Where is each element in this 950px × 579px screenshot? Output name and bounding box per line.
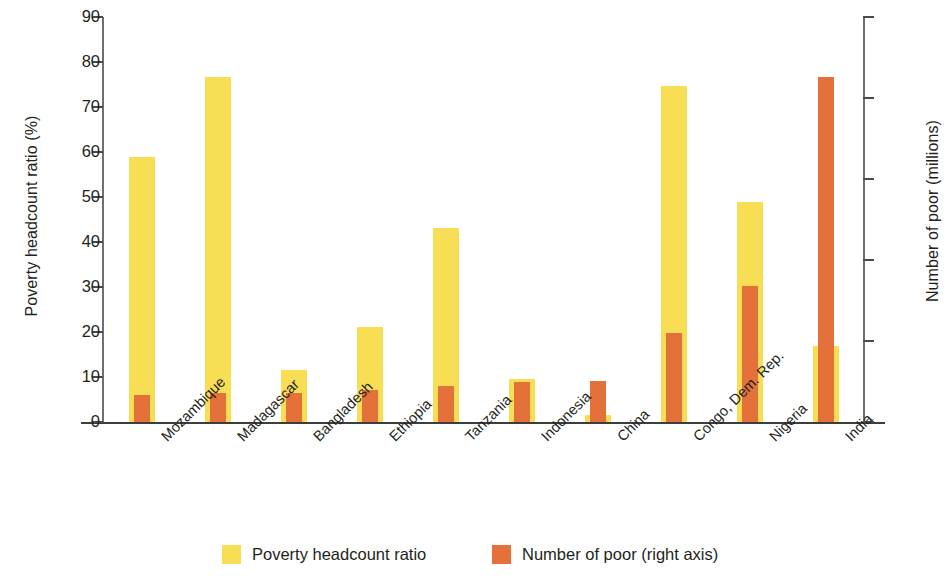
bar-group xyxy=(331,17,409,422)
category-label: Tanzania xyxy=(462,433,473,444)
left-axis-tick-label: 70 xyxy=(82,97,100,116)
legend-swatch-icon-orange xyxy=(492,545,511,564)
bar-group xyxy=(255,17,333,422)
category-label: Indonesia xyxy=(538,433,549,444)
bar-number-of-poor xyxy=(818,77,834,422)
bar-number-of-poor xyxy=(514,382,530,423)
category-label: Mozambique xyxy=(158,433,169,444)
left-axis-tick-label: 30 xyxy=(82,277,100,296)
left-axis-title: Poverty headcount ratio (%) xyxy=(23,86,41,346)
legend-label-number-of-poor: Number of poor (right axis) xyxy=(522,545,718,564)
legend-swatch-icon-yellow xyxy=(222,545,241,564)
left-axis-tick-label: 20 xyxy=(82,322,100,341)
legend-item-poverty-headcount-ratio: Poverty headcount ratio xyxy=(222,545,426,564)
left-axis-tick-label: 0 xyxy=(91,412,100,431)
poverty-bar-chart: Poverty headcount ratio (%) Number of po… xyxy=(0,0,950,579)
category-label: Congo, Dem. Rep. xyxy=(690,433,701,444)
bar-group xyxy=(179,17,257,422)
category-label: Nigeria xyxy=(766,433,777,444)
bar-number-of-poor xyxy=(438,386,454,422)
bar-number-of-poor xyxy=(590,381,606,422)
left-axis-tick-label: 90 xyxy=(82,7,100,26)
bar-group xyxy=(635,17,713,422)
category-label: Madagascar xyxy=(234,433,245,444)
bar-number-of-poor xyxy=(742,286,758,422)
category-label: India xyxy=(842,433,853,444)
category-label: China xyxy=(614,433,625,444)
bar-group xyxy=(103,17,181,422)
left-axis-tick-label: 40 xyxy=(82,232,100,251)
bar-group xyxy=(787,17,865,422)
left-axis-tick-label: 80 xyxy=(82,52,100,71)
bar-poverty-headcount-ratio xyxy=(205,77,231,422)
left-axis-tick-label: 10 xyxy=(82,367,100,386)
bar-group xyxy=(483,17,561,422)
bar-poverty-headcount-ratio xyxy=(129,157,155,423)
legend-label-poverty-headcount-ratio: Poverty headcount ratio xyxy=(252,545,426,564)
plot-area: 0102030405060708090 050100150200250 xyxy=(103,17,863,422)
chart-legend: Poverty headcount ratio Number of poor (… xyxy=(0,545,950,573)
bar-number-of-poor xyxy=(666,333,682,422)
legend-item-number-of-poor: Number of poor (right axis) xyxy=(492,545,718,564)
bar-group xyxy=(407,17,485,422)
left-axis-tick-label: 50 xyxy=(82,187,100,206)
left-axis-tick-label: 60 xyxy=(82,142,100,161)
bar-group xyxy=(559,17,637,422)
category-label: Bangladesh xyxy=(310,433,321,444)
category-label: Ethiopia xyxy=(386,433,397,444)
bar-number-of-poor xyxy=(134,395,150,422)
right-axis-title: Number of poor (millions) xyxy=(924,71,942,351)
